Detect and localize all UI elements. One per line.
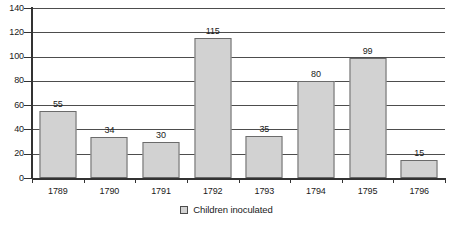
y-axis-line [31, 7, 33, 179]
y-tick-60 [24, 105, 31, 106]
y-axis-label-80: 80 [0, 76, 24, 85]
x-tick-1 [84, 178, 85, 183]
x-tick-0 [32, 178, 33, 183]
bar-slot-1789: 55 [32, 8, 84, 178]
bar-slot-1795: 99 [342, 8, 394, 178]
x-tick-4 [239, 178, 240, 183]
chart-legend: Children inoculated [0, 205, 453, 215]
bar-value-1796: 15 [414, 149, 424, 158]
y-tick-140 [24, 8, 31, 9]
y-axis-label-100: 100 [0, 52, 24, 61]
bar-1795[interactable] [349, 58, 386, 178]
bar-1792[interactable] [194, 38, 231, 178]
x-axis-label-1796: 1796 [389, 186, 449, 196]
bar-slot-1793: 35 [239, 8, 291, 178]
bar-value-1794: 80 [311, 70, 321, 79]
bar-slot-1796: 15 [393, 8, 445, 178]
bar-slot-1791: 30 [135, 8, 187, 178]
y-axis-label-0: 0 [0, 174, 24, 183]
bar-1796[interactable] [401, 160, 438, 178]
y-axis-label-40: 40 [0, 125, 24, 134]
y-tick-80 [24, 81, 31, 82]
bar-value-1795: 99 [363, 47, 373, 56]
bar-1789[interactable] [39, 111, 76, 178]
y-tick-20 [24, 154, 31, 155]
bar-1791[interactable] [142, 142, 179, 178]
y-axis-label-60: 60 [0, 101, 24, 110]
bar-1790[interactable] [91, 137, 128, 178]
y-axis-label-120: 120 [0, 28, 24, 37]
x-tick-8 [445, 178, 446, 183]
bar-slot-1790: 34 [84, 8, 136, 178]
bar-value-1792: 115 [206, 27, 220, 36]
x-tick-2 [135, 178, 136, 183]
bar-value-1789: 55 [53, 100, 63, 109]
y-tick-120 [24, 32, 31, 33]
bar-1794[interactable] [297, 81, 334, 178]
bar-value-1791: 30 [156, 131, 166, 140]
y-tick-100 [24, 57, 31, 58]
bar-slot-1792: 115 [187, 8, 239, 178]
y-axis-label-140: 140 [0, 4, 24, 13]
bar-chart: 55 34 30 115 35 80 99 15 [0, 0, 453, 229]
y-tick-0 [24, 178, 31, 179]
bar-slot-1794: 80 [290, 8, 342, 178]
y-axis-label-20: 20 [0, 149, 24, 158]
bars-layer: 55 34 30 115 35 80 99 15 [32, 8, 445, 178]
x-tick-5 [290, 178, 291, 183]
bar-value-1793: 35 [259, 125, 269, 134]
bar-value-1790: 34 [104, 126, 114, 135]
x-tick-6 [342, 178, 343, 183]
legend-swatch-icon [180, 206, 188, 214]
legend-label-children-inoculated: Children inoculated [193, 205, 272, 215]
x-tick-7 [393, 178, 394, 183]
bar-1793[interactable] [246, 136, 283, 179]
y-tick-40 [24, 129, 31, 130]
x-tick-3 [187, 178, 188, 183]
